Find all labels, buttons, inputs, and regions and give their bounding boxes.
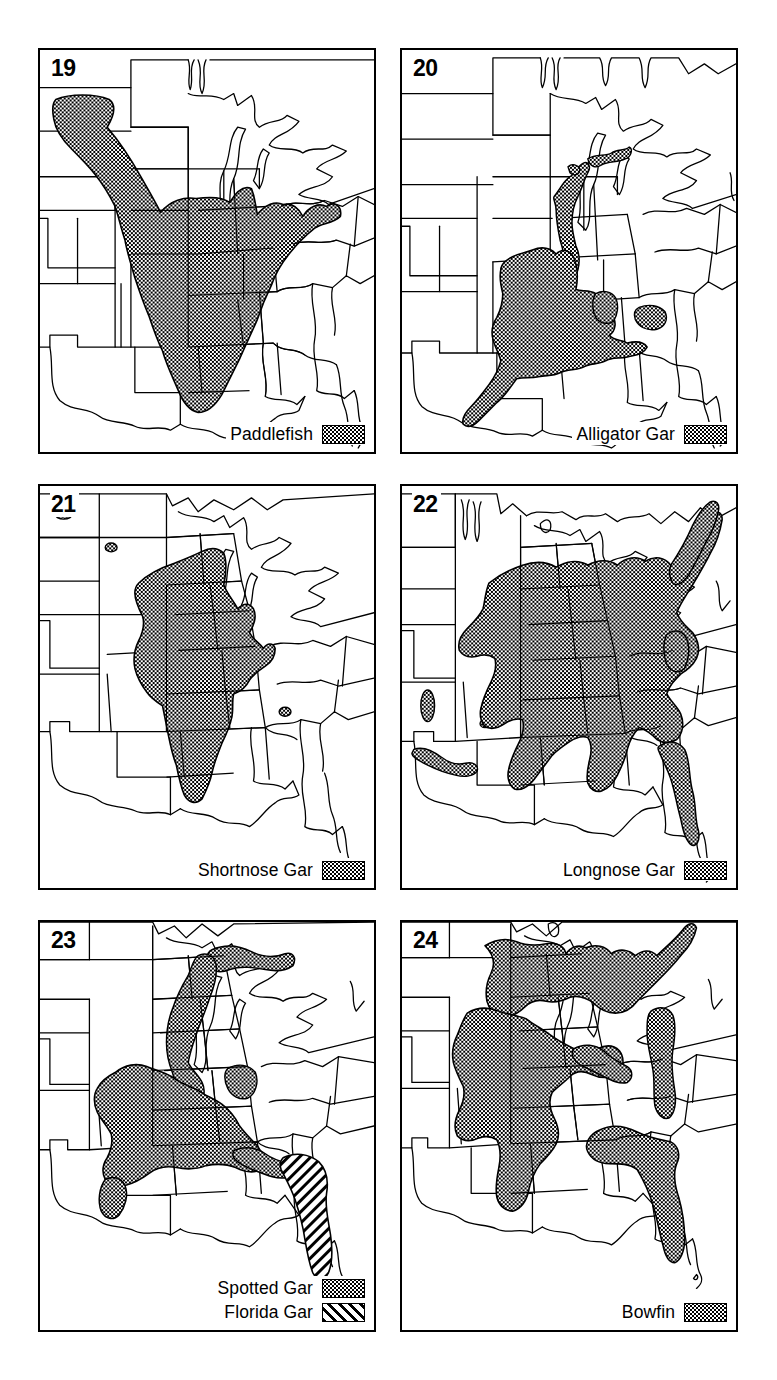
map-22-graphic <box>402 486 736 888</box>
legend-22: Longnose Gar <box>559 858 727 881</box>
legend-label: Florida Gar <box>224 1301 313 1323</box>
range-shading-22 <box>412 501 722 845</box>
legend-21: Shortnose Gar <box>194 858 365 881</box>
legend-20: Alligator Gar <box>572 422 727 445</box>
map-panel-19[interactable]: 19 Paddlefish <box>38 48 376 454</box>
legend-19: Paddlefish <box>226 422 365 445</box>
legend-item: Bowfin <box>622 1301 727 1323</box>
legend-label: Paddlefish <box>230 423 313 445</box>
legend-item: Alligator Gar <box>576 423 727 445</box>
legend-24: Bowfin <box>618 1300 727 1323</box>
legend-label: Shortnose Gar <box>198 859 313 881</box>
map-panel-20[interactable]: 20 Alligator Gar <box>400 48 738 454</box>
map-panel-21[interactable]: 21 Shortnose Gar <box>38 484 376 890</box>
legend-item: Florida Gar <box>224 1301 365 1323</box>
dotted-fill-swatch <box>684 861 727 880</box>
legend-23: Spotted Gar Florida Gar <box>214 1276 365 1323</box>
dotted-fill-swatch <box>684 1303 727 1322</box>
map-21-graphic <box>40 486 374 888</box>
map-23-graphic <box>40 922 374 1330</box>
legend-item: Spotted Gar <box>218 1277 365 1299</box>
legend-item: Paddlefish <box>230 423 365 445</box>
legend-item: Longnose Gar <box>563 859 727 881</box>
legend-label: Alligator Gar <box>576 423 675 445</box>
legend-label: Longnose Gar <box>563 859 675 881</box>
panel-number-19: 19 <box>50 56 79 81</box>
range-shading-florida-gar-23 <box>280 1154 332 1278</box>
dotted-fill-swatch <box>322 1279 365 1298</box>
map-panel-22[interactable]: 22 Longnose Gar <box>400 484 738 890</box>
range-shading-23 <box>94 946 294 1218</box>
map-20-graphic <box>402 50 736 452</box>
panel-number-23: 23 <box>50 928 79 953</box>
map-panel-23[interactable]: 23 Spotted Gar Florida Gar <box>38 920 376 1332</box>
distribution-map-plate: 19 Paddlefish <box>0 0 777 1380</box>
range-shading-19 <box>50 94 346 420</box>
range-shading-24 <box>453 924 697 1263</box>
panel-number-20: 20 <box>412 56 441 81</box>
legend-label: Bowfin <box>622 1301 675 1323</box>
panel-number-24: 24 <box>412 928 441 953</box>
map-24-graphic <box>402 922 736 1330</box>
dotted-fill-swatch <box>322 861 365 880</box>
legend-item: Shortnose Gar <box>198 859 365 881</box>
panel-number-22: 22 <box>412 492 441 517</box>
legend-label: Spotted Gar <box>218 1277 313 1299</box>
panel-number-21: 21 <box>50 492 79 517</box>
map-panel-24[interactable]: 24 Bowfin <box>400 920 738 1332</box>
dotted-fill-swatch <box>322 425 365 444</box>
map-19-graphic <box>40 50 374 452</box>
hatched-fill-swatch <box>322 1303 365 1322</box>
dotted-fill-swatch <box>684 425 727 444</box>
